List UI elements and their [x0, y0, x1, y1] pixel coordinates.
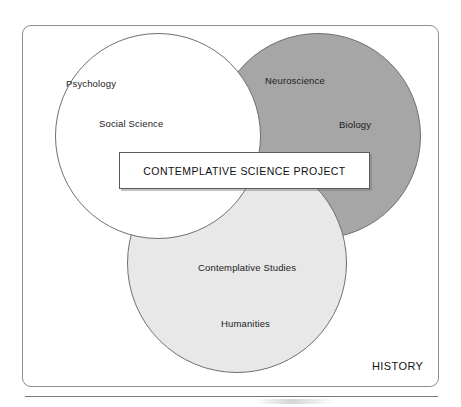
label-social-science: Social Science	[99, 118, 163, 129]
bottom-divider-rule	[25, 396, 438, 397]
label-neuroscience: Neuroscience	[265, 75, 325, 86]
label-history: HISTORY	[372, 360, 423, 372]
label-biology: Biology	[339, 119, 371, 130]
center-banner: CONTEMPLATIVE SCIENCE PROJECT	[119, 152, 370, 189]
scan-artifact-smudge	[255, 399, 335, 404]
label-psychology: Psychology	[66, 78, 116, 89]
venn-diagram-figure: Psychology Social Science Neuroscience B…	[0, 0, 461, 407]
center-banner-label: CONTEMPLATIVE SCIENCE PROJECT	[143, 165, 345, 177]
label-humanities: Humanities	[221, 318, 270, 329]
label-contemplative-studies: Contemplative Studies	[198, 262, 296, 273]
